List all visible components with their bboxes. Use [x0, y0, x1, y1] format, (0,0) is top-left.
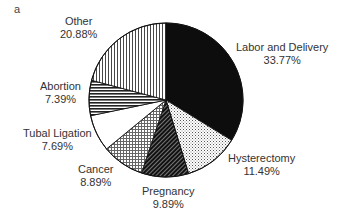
slice-name: Tubal Ligation — [23, 127, 92, 139]
slice-name: Cancer — [78, 163, 113, 175]
label-cancer: Cancer 8.89% — [78, 163, 113, 189]
slice-name: Pregnancy — [142, 185, 195, 197]
slice-percent: 8.89% — [78, 176, 113, 189]
slice-percent: 33.77% — [236, 54, 328, 67]
slice-percent: 7.39% — [40, 93, 81, 106]
label-labor-and-delivery: Labor and Delivery 33.77% — [236, 41, 328, 67]
slice-name: Hysterectomy — [228, 152, 295, 164]
label-hysterectomy: Hysterectomy 11.49% — [228, 152, 295, 178]
label-abortion: Abortion 7.39% — [40, 80, 81, 106]
label-other: Other 20.88% — [60, 15, 97, 41]
slice-percent: 20.88% — [60, 28, 97, 41]
slice-name: Labor and Delivery — [236, 41, 328, 53]
slice-percent: 7.69% — [23, 140, 92, 153]
slice-percent: 11.49% — [228, 165, 295, 178]
slice-name: Other — [65, 15, 93, 27]
slice-percent: 9.89% — [142, 198, 195, 211]
label-tubal-ligation: Tubal Ligation 7.69% — [23, 127, 92, 153]
label-pregnancy: Pregnancy 9.89% — [142, 185, 195, 211]
slice-name: Abortion — [40, 80, 81, 92]
